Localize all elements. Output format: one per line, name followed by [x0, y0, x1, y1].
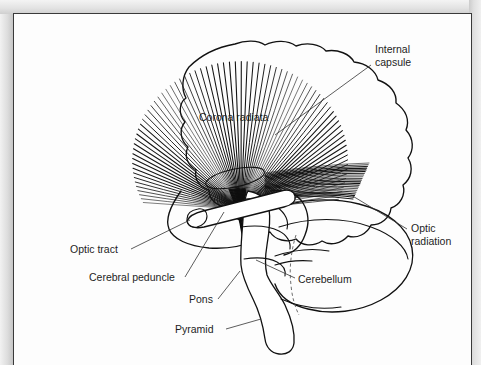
optic-tract-leader: [131, 220, 190, 249]
scan-margin-left: [0, 0, 14, 365]
cerebellum-fissure-mid: [275, 250, 329, 256]
label-optic-tract: Optic tract: [70, 243, 118, 255]
label-pons: Pons: [189, 293, 213, 305]
label-corona-radiata: Corona radiata: [199, 111, 269, 123]
label-cerebellum: Cerebellum: [298, 273, 352, 285]
cerebellum-lower-border: [281, 299, 341, 308]
label-pyramid: Pyramid: [175, 323, 214, 335]
label-optic-radiation: Opticradiation: [411, 222, 451, 247]
label-cerebral-peduncle: Cerebral peduncle: [89, 271, 175, 283]
brain-anatomy-figure: InternalcapsuleCorona radiataOpticradiat…: [13, 13, 472, 365]
cerebellum-outline: [275, 200, 413, 312]
pons-leader: [218, 271, 240, 299]
pyramid-leader: [226, 319, 261, 329]
internal-capsule-leader: [275, 65, 371, 135]
scan-margin-top: [0, 0, 481, 14]
scanned-page: InternalcapsuleCorona radiataOpticradiat…: [0, 0, 481, 365]
corona-radiata-fibers: [133, 62, 348, 209]
label-internal-capsule: Internalcapsule: [375, 43, 411, 68]
